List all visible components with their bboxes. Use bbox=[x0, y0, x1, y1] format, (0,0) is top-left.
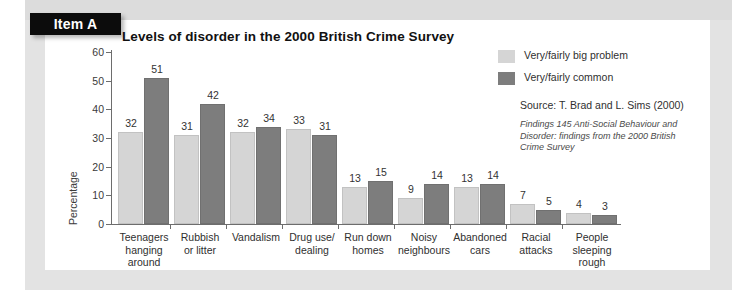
x-axis-tick bbox=[226, 224, 227, 229]
bar-group-item bbox=[312, 52, 337, 224]
bar-value-label: 3 bbox=[590, 200, 620, 212]
y-axis-tick bbox=[106, 195, 112, 196]
bar bbox=[424, 184, 449, 224]
item-a-tab: Item A bbox=[30, 13, 121, 35]
y-axis-tick-label: 20 bbox=[74, 161, 104, 173]
bar bbox=[368, 181, 393, 224]
bar-value-label: 15 bbox=[366, 166, 396, 178]
bar-value-label: 14 bbox=[422, 169, 452, 181]
x-axis-category-line: People bbox=[554, 231, 630, 244]
bar-value-label: 31 bbox=[172, 120, 202, 132]
bar bbox=[256, 127, 281, 224]
bar bbox=[592, 215, 617, 224]
y-axis-tick-label: 10 bbox=[74, 189, 104, 201]
bar-group-item bbox=[174, 52, 199, 224]
y-axis-tick-label: 40 bbox=[74, 103, 104, 115]
bar-group-item bbox=[286, 52, 311, 224]
bar-group-item bbox=[230, 52, 255, 224]
bar-value-label: 51 bbox=[142, 63, 172, 75]
legend-swatch bbox=[498, 72, 515, 85]
legend-swatch bbox=[498, 50, 515, 63]
y-axis-tick bbox=[106, 224, 112, 225]
y-axis-tick-value: 10 bbox=[78, 189, 104, 201]
x-axis-category-label: Peoplesleepingrough bbox=[554, 231, 630, 269]
bar bbox=[454, 187, 479, 224]
bar-value-label: 34 bbox=[254, 112, 284, 124]
x-axis-tick bbox=[562, 224, 563, 229]
bar bbox=[566, 213, 591, 224]
bar bbox=[286, 129, 311, 224]
y-axis-tick-value: 60 bbox=[78, 46, 104, 58]
source-note-line: Disorder: findings from the 2000 British bbox=[520, 131, 700, 143]
y-axis-tick-value: 40 bbox=[78, 103, 104, 115]
source-note-line: Findings 145 Anti-Social Behaviour and bbox=[520, 119, 700, 131]
bar bbox=[312, 135, 337, 224]
bar-group-item bbox=[200, 52, 225, 224]
bar bbox=[480, 184, 505, 224]
x-axis-tick bbox=[170, 224, 171, 229]
source-note: Findings 145 Anti-Social Behaviour andDi… bbox=[520, 119, 700, 154]
y-axis-tick-value: 30 bbox=[78, 132, 104, 144]
x-axis-tick bbox=[394, 224, 395, 229]
bar bbox=[342, 187, 367, 224]
y-axis-tick-label: 50 bbox=[74, 75, 104, 87]
bar-value-label: 9 bbox=[396, 183, 426, 195]
x-axis-tick bbox=[338, 224, 339, 229]
x-axis-category-line: or litter bbox=[162, 244, 238, 257]
item-a-tab-label: Item A bbox=[30, 13, 121, 35]
bar bbox=[536, 210, 561, 224]
page-root: Item A Levels of disorder in the 2000 Br… bbox=[0, 0, 732, 290]
bar bbox=[230, 132, 255, 224]
bar bbox=[398, 198, 423, 224]
y-axis-tick bbox=[106, 109, 112, 110]
source-note-line: Crime Survey bbox=[520, 142, 700, 154]
bar bbox=[510, 204, 535, 224]
source-line: Source: T. Brad and L. Sims (2000) bbox=[520, 99, 684, 111]
y-axis-tick bbox=[106, 52, 112, 53]
x-axis-tick bbox=[282, 224, 283, 229]
bar-group-item bbox=[398, 52, 423, 224]
y-axis-tick bbox=[106, 138, 112, 139]
x-axis-line bbox=[111, 224, 621, 225]
bar-value-label: 31 bbox=[310, 120, 340, 132]
y-axis-tick bbox=[106, 81, 112, 82]
y-axis-tick-label: 0 bbox=[74, 218, 104, 230]
bar bbox=[118, 132, 143, 224]
y-axis-tick-label: 30 bbox=[74, 132, 104, 144]
y-axis-tick-value: 0 bbox=[78, 218, 104, 230]
x-axis-category-line: around bbox=[106, 256, 182, 269]
bar-group-item bbox=[144, 52, 169, 224]
y-axis-tick bbox=[106, 167, 112, 168]
legend-label: Very/fairly common bbox=[524, 71, 613, 83]
bar-group-item bbox=[454, 52, 479, 224]
bar-group-item bbox=[368, 52, 393, 224]
y-axis-tick-value: 20 bbox=[78, 161, 104, 173]
bar-value-label: 14 bbox=[478, 169, 508, 181]
bar-value-label: 42 bbox=[198, 89, 228, 101]
bar bbox=[144, 78, 169, 224]
bar-value-label: 5 bbox=[534, 195, 564, 207]
bar-group-item bbox=[424, 52, 449, 224]
bar bbox=[200, 104, 225, 224]
legend-label: Very/fairly big problem bbox=[524, 49, 628, 61]
bar-value-label: 32 bbox=[116, 117, 146, 129]
x-axis-category-line: sleeping bbox=[554, 244, 630, 257]
bar bbox=[174, 135, 199, 224]
x-axis-tick bbox=[450, 224, 451, 229]
y-axis-tick-value: 50 bbox=[78, 75, 104, 87]
x-axis-tick bbox=[506, 224, 507, 229]
bar-group-item bbox=[256, 52, 281, 224]
x-axis-category-line: rough bbox=[554, 256, 630, 269]
bar-group-item bbox=[342, 52, 367, 224]
y-axis-tick-label: 60 bbox=[74, 46, 104, 58]
bar-group-item bbox=[118, 52, 143, 224]
